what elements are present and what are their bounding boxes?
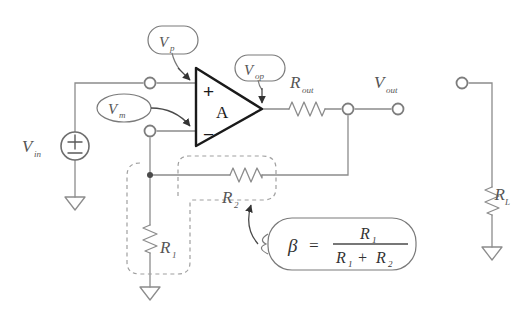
callout-vp-sub: p [169, 43, 175, 53]
callout-vop-sub: op [255, 71, 265, 81]
wire-vout-to-rl [469, 83, 492, 187]
formula-denom-left-sub: 1 [348, 259, 353, 269]
terminal-vout [393, 104, 404, 115]
formula-pointer-arrow [249, 205, 258, 244]
label-rl: R [494, 185, 506, 204]
label-vin-sub: in [34, 149, 42, 159]
terminal-plus-input [145, 78, 156, 89]
amp-minus-label: − [203, 124, 214, 145]
callout-vp-tail [172, 53, 180, 70]
r-one-zigzag [143, 225, 157, 253]
formula-bubble-tail [261, 234, 268, 254]
terminal-minus-input [145, 126, 156, 137]
label-r1-sub: 1 [172, 250, 177, 260]
formula-beta: β [287, 235, 298, 256]
terminal-load [457, 78, 468, 89]
terminal-output-node [343, 104, 354, 115]
label-r2: R [221, 188, 233, 207]
formula-numerator: R [359, 225, 370, 242]
dashed-outline-r1 [127, 163, 190, 274]
formula-numerator-sub: 1 [372, 235, 377, 245]
amp-plus-label: + [203, 81, 214, 102]
formula-denom-right: R [375, 249, 386, 266]
junction-dot-feedback [147, 172, 153, 178]
label-rout: R [289, 73, 301, 92]
formula-denom-op: + [357, 249, 368, 266]
r-two-zigzag [230, 168, 262, 182]
ground-source-icon [65, 197, 85, 210]
callout-vm-sub: m [119, 110, 126, 120]
amp-gain-label: A [216, 103, 229, 122]
label-rl-sub: L [504, 197, 510, 207]
formula-equals: = [308, 236, 319, 255]
formula-denom-left: R [335, 249, 346, 266]
formula-denom-right-sub: 2 [388, 259, 393, 269]
voltage-source-vin [61, 132, 89, 160]
label-r1: R [159, 238, 171, 257]
wire-output-to-feedback [262, 116, 348, 175]
ground-rl-icon [482, 247, 502, 260]
label-r2-sub: 2 [234, 200, 239, 210]
callout-vp-arrow [178, 68, 190, 80]
ground-r1-icon [140, 287, 160, 300]
r-out-zigzag [289, 102, 325, 116]
callout-vm-arrow [151, 108, 190, 126]
label-vout-sub: out [386, 85, 398, 95]
label-rout-sub: out [302, 85, 314, 95]
circuit-diagram: V in + − A V p V m V op R out V out R 2 … [0, 0, 512, 314]
